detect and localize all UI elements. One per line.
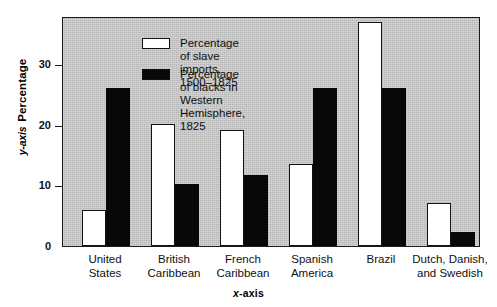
bar-blacks-4 [382,88,406,246]
x-axis-title: x-axis [0,287,497,299]
y-axis-title: y-axis Percentage [11,47,33,167]
bar-blacks-0 [106,88,130,246]
bar-imports-5 [427,203,451,246]
y-tick-label-0: 0 [0,241,51,252]
bar-blacks-3 [313,88,337,246]
legend-label-blacks: Percentage of blacks in Western Hemisphe… [180,68,245,133]
bar-blacks-5 [451,232,475,246]
bar-imports-3 [289,164,313,246]
x-axis-title-suffix: -axis [239,287,264,299]
bar-blacks-2 [244,175,268,246]
bar-imports-0 [82,210,106,246]
x-tick-label-3-line-1: America [267,266,357,280]
bar-imports-1 [151,124,175,246]
y-axis-unit-label: Percentage [16,59,28,122]
y-axis-name-label: y-axis [16,127,28,156]
x-tick-label-5-line-0: Dutch, Danish, [405,252,495,266]
legend-swatch-blacks [142,69,170,80]
legend-item-blacks: Percentage of blacks in Western Hemisphe… [142,69,245,133]
x-tick-label-5-line-1: and Swedish [405,266,495,280]
x-tick-label-5: Dutch, Danish,and Swedish [405,252,495,280]
legend-swatch-imports [142,38,170,49]
bar-blacks-1 [175,184,199,246]
y-tick-label-10: 10 [0,180,51,191]
bar-imports-2 [220,130,244,246]
bar-imports-4 [358,22,382,246]
plot-area: Percentage of slave imports, 1500–1825Pe… [62,17,480,247]
bar-chart-figure: 0102030 y-axis Percentage Percentage of … [0,0,497,307]
